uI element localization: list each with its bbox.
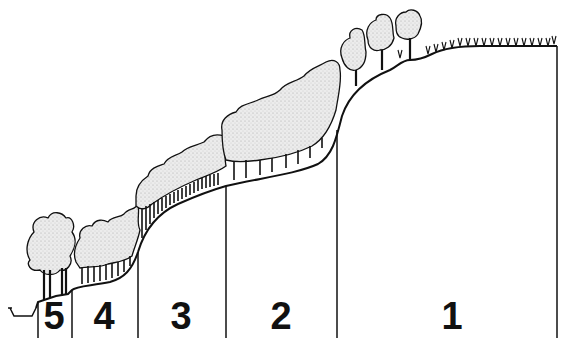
zonation-diagram: 5 4 3 2 1 [0, 0, 572, 348]
zone-label-5: 5 [43, 296, 64, 336]
tree-canopies [27, 10, 422, 275]
zone-label-1: 1 [441, 296, 462, 336]
zone-label-3: 3 [170, 296, 191, 336]
zone-label-2: 2 [270, 296, 291, 336]
zone-label-4: 4 [93, 296, 114, 336]
water-channel [8, 308, 36, 316]
